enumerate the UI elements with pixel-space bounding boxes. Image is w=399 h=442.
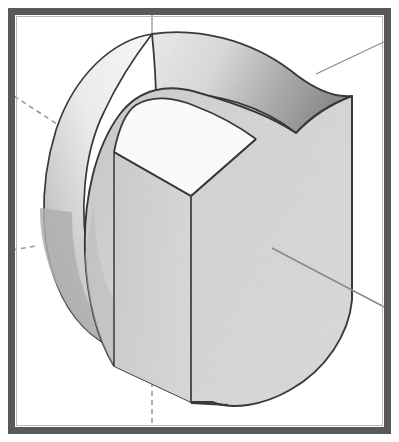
isometric-drawing-canvas xyxy=(0,0,399,442)
figure-container xyxy=(0,0,399,442)
